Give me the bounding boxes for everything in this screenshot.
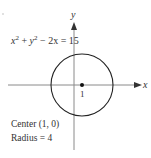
y-axis-arrow-icon [71,22,77,30]
y-axis-label: y [70,9,76,20]
x-axis-arrow-icon [134,82,142,88]
radius-text: Radius = 4 [11,133,52,143]
equation: x2 + y2 − 2x = 15 [10,34,79,46]
x-axis-label: x [142,79,148,90]
center-point [80,83,84,87]
stray-mark [2,13,4,15]
center-text: Center (1, 0) [11,119,59,130]
center-tick-label: 1 [80,89,85,99]
circle-graph: y x 1 x2 + y2 − 2x = 15 Center (1, 0) Ra… [0,0,151,158]
